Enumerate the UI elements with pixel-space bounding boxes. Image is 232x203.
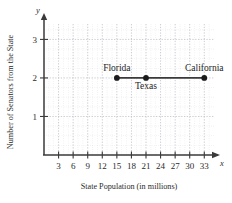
x-tick-label: 6 — [71, 161, 76, 171]
x-tick-label: 30 — [185, 161, 195, 171]
senators-vs-population-scatter-chart: 3691215182124273033 123 FloridaTexasCali… — [0, 0, 232, 203]
x-tick-label: 33 — [200, 161, 210, 171]
x-tick-label: 9 — [85, 161, 90, 171]
data-point-label: California — [185, 63, 224, 73]
y-axis-tick-labels: 123 — [33, 35, 38, 122]
x-axis-variable-label: x — [219, 158, 224, 168]
y-tick-label: 1 — [33, 112, 38, 122]
x-tick-label: 27 — [171, 161, 181, 171]
data-point-label: Florida — [103, 63, 131, 73]
y-axis-variable-label: y — [35, 5, 40, 15]
chart-gridlines — [44, 24, 214, 155]
chart-series — [114, 75, 207, 81]
data-point-label: Texas — [135, 81, 157, 91]
chart-axes — [41, 13, 220, 158]
x-tick-label: 18 — [127, 161, 137, 171]
data-point[interactable] — [114, 75, 120, 81]
y-tick-label: 3 — [33, 35, 38, 45]
x-axis-tick-labels: 3691215182124273033 — [56, 161, 209, 171]
y-tick-label: 2 — [33, 73, 38, 83]
y-axis-title: Number of Senators from the State — [6, 34, 15, 149]
data-point[interactable] — [201, 75, 207, 81]
x-tick-label: 15 — [112, 161, 122, 171]
x-axis-arrow-icon — [212, 152, 220, 158]
y-axis-arrow-icon — [41, 13, 47, 20]
x-tick-label: 24 — [156, 161, 166, 171]
x-tick-label: 21 — [142, 161, 151, 171]
x-tick-label: 3 — [56, 161, 61, 171]
x-tick-label: 12 — [98, 161, 107, 171]
x-axis-title: State Population (in millions) — [81, 182, 178, 191]
data-point[interactable] — [143, 75, 149, 81]
chart-container: 3691215182124273033 123 FloridaTexasCali… — [0, 0, 232, 203]
